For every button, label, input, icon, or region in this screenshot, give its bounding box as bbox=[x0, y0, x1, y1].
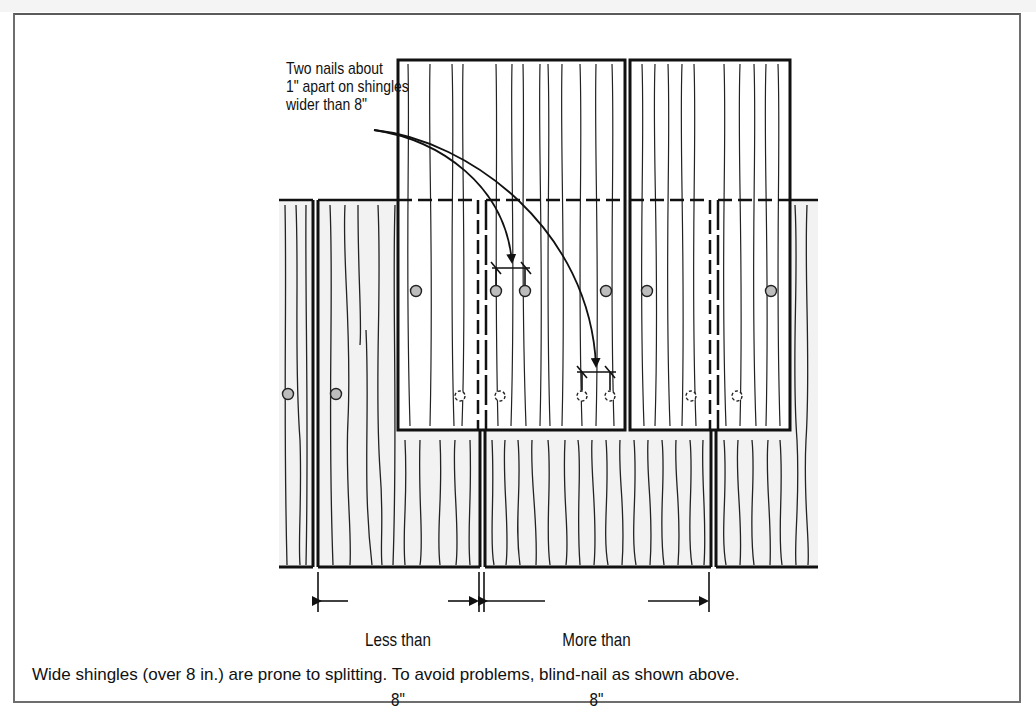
dimension-left-label: Less than 8" bbox=[358, 590, 438, 719]
callout-label: Two nails about 1" apart on shingles wid… bbox=[286, 60, 409, 114]
dimension-left-line2: 8" bbox=[358, 690, 438, 710]
upper-course bbox=[398, 60, 790, 430]
dimension-left-line1: Less than bbox=[358, 630, 438, 650]
dimension-right-line2: 8" bbox=[555, 690, 637, 710]
dimension-right-label: More than 8" bbox=[555, 590, 637, 719]
dimension-right-line1: More than bbox=[555, 630, 637, 650]
shingle-diagram bbox=[0, 0, 1036, 719]
figure-caption: Wide shingles (over 8 in.) are prone to … bbox=[32, 665, 739, 685]
